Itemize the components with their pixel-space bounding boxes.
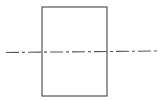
center-line-dash-dot (6, 51, 157, 53)
diagram-canvas (0, 0, 162, 100)
